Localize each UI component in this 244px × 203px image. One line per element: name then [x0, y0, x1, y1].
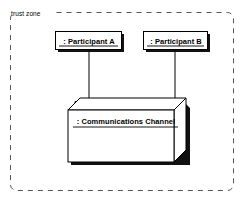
- communications-channel-label: : Communications Channel: [70, 117, 182, 126]
- channel-side-face: [174, 98, 186, 162]
- diagram-canvas: trust zone : Participant A : Participant…: [0, 0, 244, 203]
- uml-diagram: [0, 0, 244, 203]
- participant-b-label: : Participant B: [144, 37, 208, 46]
- trust-zone-label: trust zone: [11, 10, 41, 18]
- participant-a-label: : Participant A: [56, 37, 122, 46]
- channel-top-face: [68, 98, 186, 110]
